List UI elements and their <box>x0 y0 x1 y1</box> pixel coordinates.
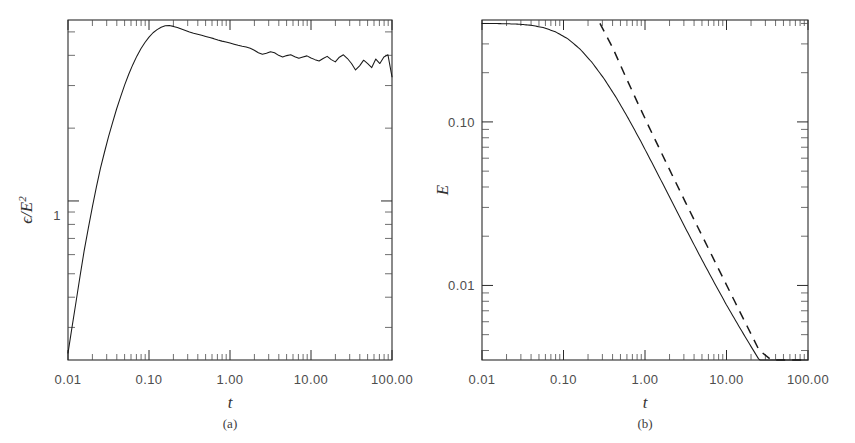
panel-b-y-axis-title: E <box>433 184 452 196</box>
panel-b-caption: (b) <box>637 416 652 431</box>
panel-a-svg: 0.010.101.0010.00100.00 1 ϵ/E2 t (a) <box>0 0 430 443</box>
panel-a-x-minor-ticks <box>92 20 388 360</box>
panel-b-y-tick-label-1: 0.01 <box>448 278 475 293</box>
panel-a-x-tick-label-0: 0.01 <box>55 372 82 387</box>
panel-b-y-tick-label-0: 0.10 <box>448 115 475 130</box>
panel-b-x-tick-label-0: 0.01 <box>469 372 496 387</box>
panel-b-power-law-dashed-line <box>600 23 808 360</box>
panel-a-plot-frame <box>68 20 392 360</box>
panel-b-x-tick-labels: 0.010.101.0010.00100.00 <box>469 372 830 387</box>
panel-a-x-tick-label-1: 0.10 <box>136 372 163 387</box>
panel-b: 0.010.101.0010.00100.00 0.100.01 E t (b) <box>430 0 855 443</box>
panel-b-y-ticks <box>482 23 808 350</box>
panel-b-ylabel-text: E <box>433 184 452 196</box>
panel-a-y-ticks <box>68 32 392 328</box>
panel-b-x-tick-label-3: 10.00 <box>709 372 744 387</box>
figure-container: 0.010.101.0010.00100.00 1 ϵ/E2 t (a) <box>0 0 855 443</box>
panel-a-ylabel-denominator: E <box>17 201 36 213</box>
panel-a-data-curve <box>68 26 392 353</box>
panel-b-x-axis-title: t <box>643 393 649 412</box>
panel-b-x-tick-label-1: 0.10 <box>550 372 577 387</box>
panel-b-x-tick-label-4: 100.00 <box>787 372 829 387</box>
panel-b-x-minor-ticks <box>507 20 805 360</box>
panel-b-y-tick-labels: 0.100.01 <box>448 115 475 294</box>
panel-a-y-axis-title: ϵ/E2 <box>16 196 36 224</box>
panel-a: 0.010.101.0010.00100.00 1 ϵ/E2 t (a) <box>0 0 430 443</box>
panel-a-x-tick-labels: 0.010.101.0010.00100.00 <box>55 372 414 387</box>
panel-b-data-curve <box>482 23 808 360</box>
panel-b-plot-frame <box>482 20 808 360</box>
panel-a-x-major-ticks <box>68 20 392 360</box>
panel-a-caption: (a) <box>223 416 237 431</box>
panel-a-ylabel-exponent: 2 <box>16 196 28 202</box>
svg-text:ϵ/E2: ϵ/E2 <box>16 196 36 224</box>
panel-a-x-tick-label-3: 10.00 <box>294 372 329 387</box>
panel-a-x-tick-label-4: 100.00 <box>371 372 413 387</box>
panel-b-x-tick-label-2: 1.00 <box>632 372 659 387</box>
panel-b-x-major-ticks <box>482 20 808 360</box>
panel-a-x-tick-label-2: 1.00 <box>217 372 244 387</box>
panel-b-svg: 0.010.101.0010.00100.00 0.100.01 E t (b) <box>430 0 855 443</box>
panel-a-x-axis-title: t <box>228 393 234 412</box>
panel-a-y-tick-label-1: 1 <box>53 208 61 223</box>
